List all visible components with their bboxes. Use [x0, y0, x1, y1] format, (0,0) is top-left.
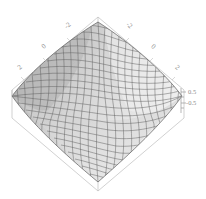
x-tick-label-front: 2 — [16, 63, 24, 72]
x-tick-label-mid: 0 — [40, 42, 48, 51]
surface-body — [12, 22, 182, 182]
x-tick-label-back: -2 — [63, 20, 73, 30]
surface-plot-figure: -2 0 2 -2 0 2 0.5 -0.5 — [0, 0, 206, 199]
z-tick-label-upper: 0.5 — [188, 88, 196, 95]
y-tick-label-front: 2 — [173, 63, 181, 72]
y-tick-label-back: -2 — [124, 21, 134, 31]
z-tick-label-lower: -0.5 — [186, 99, 196, 106]
y-tick-label-mid: 0 — [149, 42, 157, 51]
plot-canvas: -2 0 2 -2 0 2 0.5 -0.5 — [0, 0, 206, 199]
